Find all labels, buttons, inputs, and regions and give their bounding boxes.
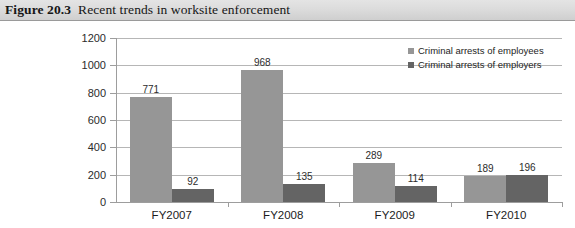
bar	[506, 175, 548, 202]
y-axis-tick-label: 600	[66, 115, 106, 126]
bar-value-label: 189	[464, 164, 506, 174]
y-axis-tick-label: 1000	[66, 60, 106, 71]
figure-caption-band: Figure 20.3 Recent trends in worksite en…	[0, 0, 575, 21]
bar-value-label: 135	[283, 172, 325, 182]
legend-item: Criminal arrests of employees	[408, 44, 568, 57]
bar-value-label: 771	[130, 85, 172, 95]
bar	[283, 184, 325, 202]
x-axis-category-label: FY2008	[228, 209, 340, 221]
chart-legend: Criminal arrests of employeesCriminal ar…	[408, 44, 568, 72]
bar-value-label: 92	[172, 177, 214, 187]
y-axis-tick-label: 1200	[66, 33, 106, 44]
x-axis-separator	[451, 202, 452, 207]
bar	[464, 176, 506, 202]
x-axis-category-label: FY2010	[451, 209, 563, 221]
bar-value-label: 196	[506, 163, 548, 173]
legend-swatch-icon	[408, 48, 414, 54]
y-axis-labels: 020040060080010001200	[62, 21, 106, 228]
y-axis-tick-label: 400	[66, 142, 106, 153]
bar	[353, 163, 395, 202]
x-axis-separator	[339, 202, 340, 207]
y-axis-tick-label: 0	[66, 197, 106, 208]
bar	[130, 97, 172, 202]
bar	[395, 186, 437, 202]
legend-label: Criminal arrests of employers	[418, 60, 542, 70]
figure-caption: Figure 20.3 Recent trends in worksite en…	[5, 2, 290, 18]
bar-chart: 020040060080010001200 FY2007FY2008FY2009…	[0, 21, 575, 228]
bar-value-label: 114	[395, 174, 437, 184]
y-axis-tick-label: 200	[66, 170, 106, 181]
bar	[172, 189, 214, 202]
bar-value-label: 289	[353, 151, 395, 161]
figure-title: Recent trends in worksite enforcement	[78, 2, 290, 17]
x-axis-category-label: FY2009	[339, 209, 451, 221]
x-axis-separator	[562, 202, 563, 207]
x-axis-separator	[228, 202, 229, 207]
legend-item: Criminal arrests of employers	[408, 58, 568, 71]
legend-swatch-icon	[408, 62, 414, 68]
x-axis-category-label: FY2007	[116, 209, 228, 221]
legend-label: Criminal arrests of employees	[418, 46, 544, 56]
figure-number: Figure 20.3	[5, 2, 71, 17]
bar	[241, 70, 283, 202]
y-axis-tick-label: 800	[66, 88, 106, 99]
bar-value-label: 968	[241, 58, 283, 68]
figure-container: Figure 20.3 Recent trends in worksite en…	[0, 0, 575, 228]
